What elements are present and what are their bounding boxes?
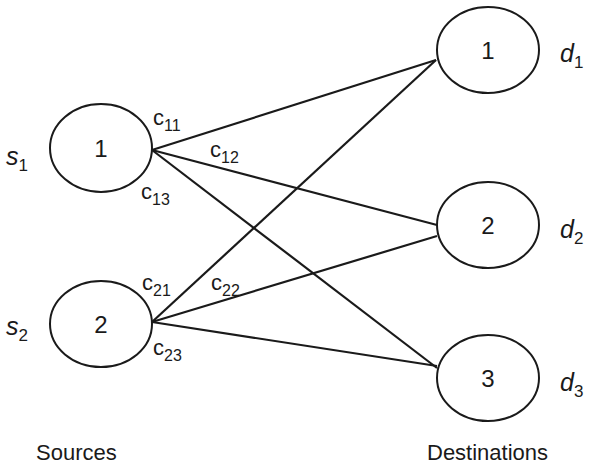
edge-s1-d3: [152, 150, 437, 368]
cost-label-c12: c12: [210, 137, 239, 166]
cost-label-c21: c21: [142, 270, 171, 299]
demand-subscript: 3: [574, 382, 583, 401]
cost-symbol: c: [142, 270, 153, 295]
edges: [152, 60, 437, 368]
edge-s2-d2: [152, 236, 437, 322]
destinations-caption: Destinations: [427, 440, 548, 465]
destination-node-1-label: 1: [481, 37, 494, 64]
cost-label-c23: c23: [153, 335, 182, 364]
demand-subscript: 2: [574, 229, 583, 248]
demand-symbol: d: [560, 39, 575, 67]
demand-label-d2: d2: [560, 215, 583, 248]
supply-symbol: s: [6, 142, 19, 170]
edge-s1-d1: [152, 60, 436, 150]
supply-label-s1: s1: [6, 142, 28, 175]
cost-label-c13: c13: [141, 179, 170, 208]
cost-symbol: c: [210, 137, 221, 162]
sources-caption: Sources: [36, 440, 117, 465]
cost-subscript: 13: [152, 191, 170, 208]
cost-label-c11: c11: [153, 105, 181, 134]
source-node-2-label: 2: [94, 311, 107, 338]
cost-label-c22: c22: [211, 270, 240, 299]
supply-subscript: 2: [19, 326, 28, 345]
destination-node-1: 1: [437, 7, 539, 93]
edge-s1-d2: [152, 150, 437, 225]
destination-node-2-label: 2: [481, 212, 494, 239]
edge-s2-d3: [152, 322, 437, 366]
cost-subscript: 12: [221, 149, 239, 166]
transportation-network-diagram: 1 2 1 2 3 s1 s2 d1 d2 d3 c11 c12 c13: [0, 0, 591, 465]
demand-symbol: d: [560, 368, 575, 396]
supply-symbol: s: [6, 312, 19, 340]
destination-node-3: 3: [437, 335, 539, 421]
edge-s2-d1: [152, 60, 436, 322]
source-node-1-label: 1: [94, 135, 107, 162]
cost-symbol: c: [141, 179, 152, 204]
source-node-1: 1: [50, 104, 152, 192]
demand-symbol: d: [560, 215, 575, 243]
demand-label-d3: d3: [560, 368, 583, 401]
cost-subscript: 11: [164, 117, 181, 134]
cost-subscript: 22: [222, 282, 240, 299]
destination-node-2: 2: [437, 182, 539, 268]
cost-subscript: 23: [164, 347, 182, 364]
supply-label-s2: s2: [6, 312, 28, 345]
cost-symbol: c: [153, 335, 164, 360]
cost-symbol: c: [153, 105, 164, 130]
cost-subscript: 21: [153, 282, 171, 299]
destination-node-3-label: 3: [481, 365, 494, 392]
demand-subscript: 1: [574, 53, 583, 72]
cost-symbol: c: [211, 270, 222, 295]
source-node-2: 2: [50, 281, 152, 367]
demand-label-d1: d1: [560, 39, 583, 72]
supply-subscript: 1: [19, 156, 28, 175]
